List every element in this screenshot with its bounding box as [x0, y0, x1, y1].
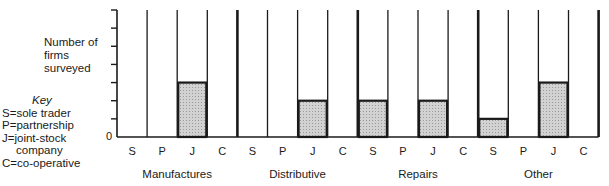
bar-repairs-j: [419, 101, 447, 137]
bar-chart: SPJCManufacturesSPJCDistributiveSPJCRepa…: [0, 0, 609, 186]
group-label: Manufactures: [142, 168, 212, 180]
x-tick-label: C: [218, 145, 226, 157]
x-tick-label: P: [158, 145, 165, 157]
x-tick-label: J: [430, 145, 436, 157]
axis-labels-layer: SPJCManufacturesSPJCDistributiveSPJCRepa…: [128, 145, 587, 180]
bar-manufactures-j: [178, 83, 206, 137]
x-tick-label: P: [520, 145, 527, 157]
group-label: Other: [524, 168, 553, 180]
bar-other-s: [479, 119, 507, 137]
x-tick-label: P: [279, 145, 286, 157]
x-tick-label: S: [128, 145, 135, 157]
x-tick-label: C: [339, 145, 347, 157]
x-tick-label: J: [190, 145, 196, 157]
bar-distributive-j: [299, 101, 327, 137]
x-tick-label: J: [551, 145, 557, 157]
x-tick-label: P: [399, 145, 406, 157]
x-tick-label: S: [490, 145, 497, 157]
group-label: Distributive: [269, 168, 326, 180]
x-tick-label: J: [310, 145, 316, 157]
x-tick-label: C: [580, 145, 588, 157]
x-tick-label: C: [459, 145, 467, 157]
bar-other-j: [539, 83, 567, 137]
x-tick-label: S: [249, 145, 256, 157]
x-tick-label: S: [369, 145, 376, 157]
group-label: Repairs: [398, 168, 438, 180]
bar-repairs-s: [359, 101, 387, 137]
